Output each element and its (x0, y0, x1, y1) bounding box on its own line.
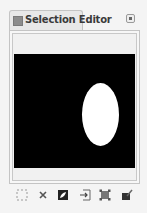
selection-toolbar (9, 186, 140, 206)
selection-editor-icon (13, 16, 23, 26)
tab-label: Selection Editor (25, 14, 112, 25)
select-none-button[interactable] (36, 188, 50, 202)
selection-preview-canvas[interactable] (14, 54, 135, 168)
select-all-icon (16, 189, 28, 201)
select-none-icon (38, 190, 48, 200)
invert-selection-button[interactable] (56, 188, 70, 202)
tab-menu-button[interactable] (126, 14, 135, 23)
selection-to-path-button[interactable] (98, 188, 112, 202)
dock-tab-bar: Selection Editor (0, 0, 147, 31)
tab-selection-editor[interactable]: Selection Editor (9, 10, 83, 31)
select-all-button[interactable] (15, 188, 29, 202)
stroke-selection-button[interactable] (120, 188, 134, 202)
save-to-channel-button[interactable] (78, 188, 92, 202)
selection-ellipse (82, 83, 119, 146)
stroke-selection-icon (121, 189, 133, 201)
selection-preview-frame (12, 33, 137, 181)
selection-editor-panel (9, 30, 140, 184)
save-to-channel-icon (79, 189, 91, 201)
selection-to-path-icon (99, 189, 111, 201)
invert-selection-icon (57, 189, 69, 201)
